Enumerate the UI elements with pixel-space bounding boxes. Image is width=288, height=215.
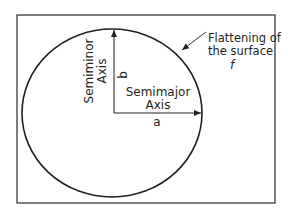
semimajor-label-line2: Axis — [146, 98, 171, 112]
flattening-label-line2: the surface — [208, 44, 273, 58]
f-label: f — [230, 58, 236, 72]
semiminor-label-line1: Semiminor — [82, 38, 96, 103]
b-label: b — [116, 71, 130, 79]
semimajor-label-line1: Semimajor — [126, 85, 191, 99]
a-label: a — [153, 115, 160, 129]
flattening-pointer-arrow — [182, 32, 206, 50]
flattening-label-line1: Flattening of — [208, 31, 282, 45]
ellipse-flattening-diagram: Semiminor Axis b Semimajor Axis a Flatte… — [0, 0, 288, 215]
semiminor-label-line2: Axis — [95, 59, 109, 84]
